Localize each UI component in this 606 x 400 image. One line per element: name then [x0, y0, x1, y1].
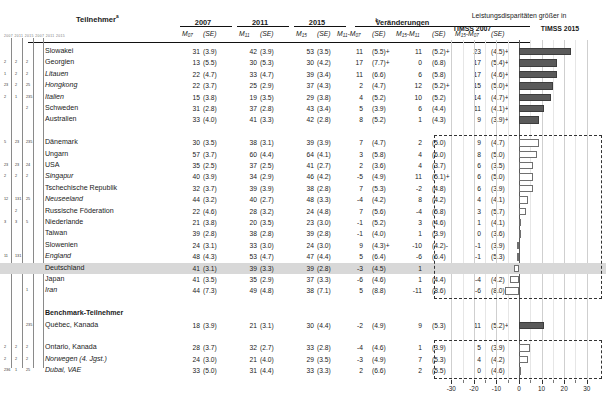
value-diff-11-07: 3	[341, 149, 363, 160]
footnote-marker: 3	[15, 217, 17, 228]
value-diff-11-07: -3	[341, 354, 363, 365]
x-tick-label: 30	[577, 385, 597, 392]
footnote-marker: 2	[26, 69, 28, 80]
footnote-marker: 5	[4, 137, 6, 148]
x-tick	[564, 380, 565, 384]
value-diff-11-07: 4	[341, 92, 363, 103]
country-label: Norwegen (4. Jgst.)	[45, 354, 107, 365]
value-diff-15-11: 1	[400, 114, 422, 125]
footnote-marker: 23	[4, 80, 8, 91]
subheader-m15: M15	[296, 30, 307, 37]
country-label: Georgien	[45, 57, 74, 68]
value-se15: (3.3)	[317, 365, 339, 376]
x-tick	[519, 380, 520, 384]
value-m15: 41	[296, 160, 314, 171]
value-m11: 21	[239, 354, 257, 365]
value-m07: 22	[182, 206, 200, 217]
value-diff-15-11: 2	[400, 137, 422, 148]
value-m15: 37	[296, 80, 314, 91]
value-se-diff-11-07: (8.8)	[372, 285, 398, 296]
country-label: Slowakei	[45, 46, 73, 57]
value-diff-11-07: 11	[341, 46, 363, 57]
value-m07: 31	[182, 103, 200, 114]
value-se15: (4.8)	[317, 206, 339, 217]
value-m07: 21	[182, 217, 200, 228]
x-tick	[496, 380, 497, 384]
footnote-marker: 2	[4, 92, 6, 103]
value-diff-15-11: -10	[400, 240, 422, 251]
value-m11: 30	[239, 57, 257, 68]
footnote-marker: 2	[4, 57, 6, 68]
value-diff-15-11: 0	[400, 57, 422, 68]
footnote-marker: 235	[26, 92, 32, 103]
footnote-marker: 11	[4, 251, 8, 262]
value-diff-15-11: 1	[400, 274, 422, 285]
value-diff-15-11: 1	[400, 228, 422, 239]
value-m07: 44	[182, 285, 200, 296]
value-m07: 24	[182, 354, 200, 365]
x-tick-minor	[553, 380, 554, 383]
value-se-diff-11-07: (5.3)	[372, 183, 398, 194]
value-se07: (3.1)	[203, 263, 225, 274]
value-m15: 23	[296, 217, 314, 228]
x-tick-minor	[530, 380, 531, 383]
value-se15: (4.4)	[317, 251, 339, 262]
value-se11: (5.3)	[260, 57, 282, 68]
year-group-headers: 2007 2011 2015 Veränderungenb	[0, 18, 432, 30]
value-m11: 21	[239, 320, 257, 331]
table-row: Japan41(3.5)35(2.9)37(3.3)-6(4.6)1(4.4)-…	[0, 274, 432, 285]
value-se07: (2.5)	[203, 160, 225, 171]
rule-2011	[237, 26, 289, 27]
value-se15: (3.5)	[317, 46, 339, 57]
table-row: 523235Dänemark30(3.5)38(3.1)39(3.9)7(4.7…	[0, 137, 432, 148]
nonsignificant-group-box-main	[434, 135, 602, 299]
footnote-marker: 235	[26, 137, 32, 148]
value-m07: 32	[182, 183, 200, 194]
footnote-marker: 25	[26, 80, 30, 91]
value-diff-15-11: -11	[400, 285, 422, 296]
x-tick	[587, 380, 588, 384]
value-diff-15-11: -2	[400, 183, 422, 194]
footnote-marker: 12	[4, 194, 8, 205]
x-tick-label: 0	[509, 385, 529, 392]
value-se07: (3.1)	[203, 240, 225, 251]
value-se-diff-11-07: (5.5)+	[372, 46, 398, 57]
footnote-marker: 2	[4, 342, 6, 353]
value-se-diff-11-07: (5.2)	[372, 114, 398, 125]
value-se11: (2.5)	[260, 160, 282, 171]
chart-title: Leistungsdisparitäten größer in	[432, 12, 606, 19]
footnote-marker: 2	[26, 57, 28, 68]
value-se07: (3.0)	[203, 354, 225, 365]
footnote-marker: 2	[26, 342, 28, 353]
value-m11: 42	[239, 46, 257, 57]
value-diff-11-07: 7	[341, 137, 363, 148]
value-se-diff-11-07: (7.7)+	[372, 57, 398, 68]
value-m15: 39	[296, 228, 314, 239]
value-se11: (3.9)	[260, 46, 282, 57]
value-m15: 38	[296, 285, 314, 296]
value-m07: 44	[182, 194, 200, 205]
value-se11: (2.9)	[260, 171, 282, 182]
value-diff-11-07: 8	[341, 114, 363, 125]
value-se15: (3.3)	[317, 194, 339, 205]
table-row: 222Singapur40(3.9)34(2.9)46(4.2)-5(4.9)1…	[0, 171, 432, 182]
footnote-marker: 1	[26, 285, 28, 296]
footnote-marker: 2	[26, 103, 28, 114]
value-m15: 53	[296, 46, 314, 57]
value-se11: (3.5)	[260, 217, 282, 228]
value-diff-11-07: 11	[341, 69, 363, 80]
value-se11: (2.8)	[260, 228, 282, 239]
x-tick	[451, 380, 452, 384]
subheader-se07: (SE)	[203, 30, 217, 37]
value-se15: (3.8)	[317, 92, 339, 103]
x-tick-label: 20	[554, 385, 574, 392]
value-m07: 33	[182, 114, 200, 125]
value-m11: 33	[239, 240, 257, 251]
footnote-marker: 1	[15, 365, 17, 376]
table-row: 21235Italien15(3.8)19(3.5)29(3.8)4(5.2)1…	[0, 92, 432, 103]
value-diff-15-11: 7	[400, 354, 422, 365]
value-diff-15-11: -4	[400, 206, 422, 217]
table-row: 11131England48(4.3)53(4.7)47(4.4)5(6.4)-…	[0, 251, 432, 262]
nonsignificant-group-box-benchmark	[434, 340, 602, 378]
value-m11: 39	[239, 183, 257, 194]
